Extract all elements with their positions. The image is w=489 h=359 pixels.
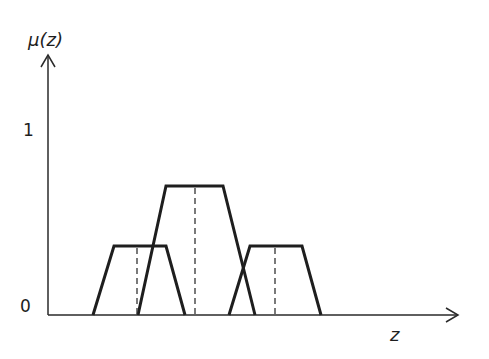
fuzzy-membership-diagram <box>0 0 489 359</box>
x-axis-label: z <box>390 326 399 344</box>
membership-functions <box>93 186 321 315</box>
y-axis <box>41 55 55 315</box>
center-lines <box>137 188 275 315</box>
middle-trapezoid <box>138 186 255 315</box>
y-tick-0: 0 <box>20 298 31 315</box>
y-axis-label: μ(z) <box>28 31 63 49</box>
y-tick-1: 1 <box>23 122 34 139</box>
